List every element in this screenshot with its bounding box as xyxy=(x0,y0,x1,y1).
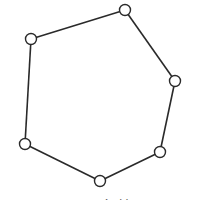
figure-caption-clipped: 图 — — 无向简图 xyxy=(0,194,198,200)
graph-node xyxy=(20,139,31,150)
graph-edge xyxy=(160,81,175,152)
hexagon-cycle-graph xyxy=(0,0,198,200)
graph-node xyxy=(170,76,181,87)
graph-edge xyxy=(31,10,125,39)
graph-edge xyxy=(25,39,31,144)
figure-caption: 图 — — 无向简图 xyxy=(6,194,153,200)
graph-node xyxy=(95,176,106,187)
graph-edge xyxy=(125,10,175,81)
graph-node xyxy=(155,147,166,158)
graph-node xyxy=(120,5,131,16)
graph-edge xyxy=(100,152,160,181)
graph-node xyxy=(26,34,37,45)
graph-edge xyxy=(25,144,100,181)
